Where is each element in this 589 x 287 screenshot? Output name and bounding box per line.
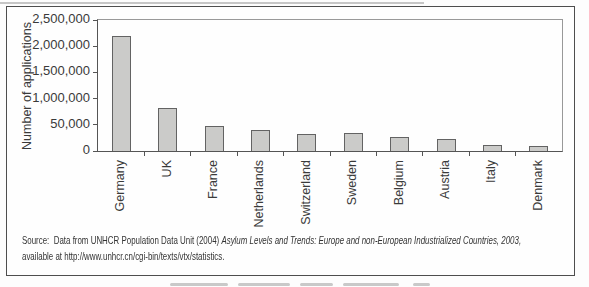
y-tick-mark bbox=[93, 72, 97, 73]
bar-netherlands bbox=[251, 130, 270, 151]
bar-germany bbox=[112, 36, 131, 151]
y-tick-label: 0 bbox=[83, 142, 90, 158]
x-tick-label: UK bbox=[160, 160, 174, 177]
x-tick-label: Netherlands bbox=[252, 160, 266, 227]
x-tick-mark bbox=[190, 151, 191, 156]
bar-italy bbox=[483, 145, 502, 151]
x-tick-label: France bbox=[206, 160, 220, 199]
y-tick-mark bbox=[93, 98, 97, 99]
y-tick-mark bbox=[93, 46, 97, 47]
y-tick-mark bbox=[93, 124, 97, 125]
y-tick-label: 2,000,000 bbox=[32, 37, 90, 53]
source-url-line: available at http://www.unhcr.cn/cgi-bin… bbox=[22, 250, 224, 262]
x-tick-mark bbox=[515, 151, 516, 156]
x-tick-label: Denmark bbox=[531, 160, 545, 211]
x-tick-mark bbox=[144, 151, 145, 156]
cropped-caption-remnant bbox=[238, 283, 290, 286]
y-tick-label: 50,000 bbox=[50, 116, 90, 132]
bar-uk bbox=[158, 108, 177, 151]
x-tick-label: Belgium bbox=[392, 160, 406, 205]
y-tick-mark bbox=[93, 151, 97, 152]
x-tick-label: Italy bbox=[484, 160, 498, 183]
x-tick-mark bbox=[237, 151, 238, 156]
source-text: Source: Data from UNHCR Population Data … bbox=[22, 234, 221, 246]
y-tick-label: 1,000,000 bbox=[32, 90, 90, 106]
bar-denmark bbox=[529, 146, 548, 151]
y-axis-labels: 2,500,0002,000,0001,500,0001,000,00050,0… bbox=[0, 19, 97, 152]
bar-france bbox=[205, 126, 224, 151]
bar-switzerland bbox=[297, 134, 316, 151]
x-tick-mark bbox=[330, 151, 331, 156]
x-tick-label: Austria bbox=[438, 160, 452, 199]
x-tick-mark bbox=[283, 151, 284, 156]
x-axis-labels: GermanyUKFranceNetherlandsSwitzerlandSwe… bbox=[97, 157, 563, 235]
cropped-caption-remnant bbox=[300, 283, 333, 286]
x-tick-mark bbox=[469, 151, 470, 156]
source-note: Source: Data from UNHCR Population Data … bbox=[22, 232, 562, 264]
x-tick-label: Germany bbox=[113, 160, 127, 211]
x-tick-label: Switzerland bbox=[299, 160, 313, 225]
cropped-caption-remnant bbox=[343, 283, 399, 286]
x-tick-mark bbox=[422, 151, 423, 156]
x-tick-mark bbox=[376, 151, 377, 156]
y-tick-mark bbox=[93, 20, 97, 21]
y-tick-label: 1,500,000 bbox=[32, 63, 90, 79]
bar-belgium bbox=[390, 137, 409, 151]
cropped-caption-remnant bbox=[170, 283, 228, 286]
bar-sweden bbox=[344, 133, 363, 151]
source-title-italic: Asylum Levels and Trends: Europe and non… bbox=[221, 234, 521, 246]
y-tick-label: 2,500,000 bbox=[32, 11, 90, 27]
bar-austria bbox=[437, 139, 456, 151]
plot-area bbox=[97, 19, 563, 152]
scan-artifact-line bbox=[0, 2, 424, 4]
figure: Number of applications 2,500,0002,000,00… bbox=[0, 0, 589, 287]
x-tick-label: Sweden bbox=[345, 160, 359, 205]
cropped-caption-remnant bbox=[413, 283, 430, 286]
